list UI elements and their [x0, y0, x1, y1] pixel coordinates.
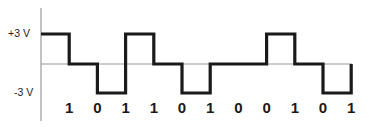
bit-label: 1 [287, 99, 303, 116]
bit-label: 0 [174, 99, 190, 116]
bit-label: 0 [259, 99, 275, 116]
bit-label: 0 [315, 99, 331, 116]
bit-label: 1 [343, 99, 359, 116]
signal-waveform-diagram: +3 V -3 V 10110100101 [0, 0, 369, 127]
bit-label: 1 [146, 99, 162, 116]
high-voltage-label: +3 V [8, 27, 30, 39]
bit-label: 1 [118, 99, 134, 116]
bit-label: 0 [230, 99, 246, 116]
bit-label: 0 [89, 99, 105, 116]
low-voltage-label: -3 V [14, 86, 33, 98]
bit-label: 1 [61, 99, 77, 116]
bit-label: 1 [202, 99, 218, 116]
